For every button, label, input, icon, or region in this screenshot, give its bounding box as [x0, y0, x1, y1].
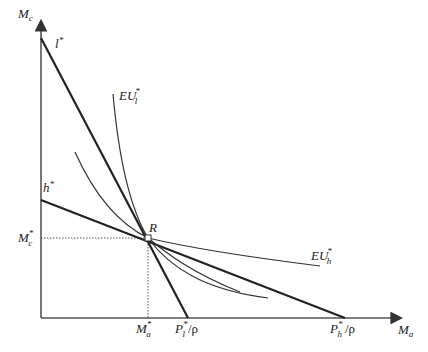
ph-rho-label: P*h/ρ	[329, 319, 355, 339]
y-axis-label: Mc	[17, 6, 33, 23]
l-star-label: l*	[55, 35, 64, 51]
l-star-line	[41, 38, 188, 318]
eu-l-curve	[113, 94, 268, 298]
ma-star-label: M*a	[135, 319, 152, 339]
point-r-label: R	[148, 220, 157, 235]
eu-h-label: EU*h	[310, 246, 332, 266]
h-star-line	[41, 200, 345, 318]
point-r-marker	[145, 235, 151, 241]
x-axis-label: Ma	[397, 322, 414, 339]
diagram-canvas: Mc Ma l* h* EU*l EU*h R M*c M*a P*l/ρ P*…	[0, 0, 428, 352]
mc-star-label: M*c	[17, 228, 34, 248]
pl-rho-label: P*l/ρ	[174, 319, 198, 339]
h-star-label: h*	[43, 179, 55, 195]
eu-l-label: EU*l	[118, 86, 140, 106]
